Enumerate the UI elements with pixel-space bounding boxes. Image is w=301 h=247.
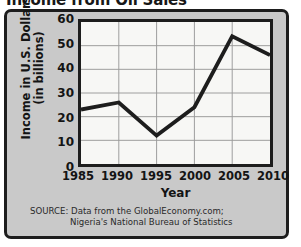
y-axis-tick-labels: 0102030405060	[40, 19, 74, 167]
plot-area	[78, 19, 273, 167]
x-tick-label: 2010	[253, 170, 293, 183]
y-tick-label: 50	[44, 38, 74, 50]
source-note: SOURCE: Data from the GlobalEconomy.com;…	[14, 206, 276, 227]
x-tick-label: 2000	[175, 170, 215, 183]
y-tick-label: 60	[44, 13, 74, 25]
y-tick-label: 10	[44, 136, 74, 148]
y-tick-label: 40	[44, 62, 74, 74]
x-tick-label: 2005	[214, 170, 254, 183]
y-tick-label: 20	[44, 112, 74, 124]
x-tick-label: 1995	[136, 170, 176, 183]
data-line-series	[81, 36, 270, 135]
x-tick-label: 1985	[58, 170, 98, 183]
x-axis-title: Year	[78, 186, 273, 200]
source-note-line1: SOURCE: Data from the GlobalEconomy.com;	[14, 206, 276, 217]
y-axis-title-line1: Income in U.S. Dollars	[19, 0, 33, 140]
plot-svg	[81, 22, 270, 164]
horizontal-gridlines	[81, 46, 270, 141]
x-axis-tick-labels: 198519901995200020052010	[78, 170, 273, 186]
y-tick-label: 30	[44, 87, 74, 99]
source-note-line2: Nigeria's National Bureau of Statistics	[14, 217, 276, 228]
x-tick-label: 1990	[97, 170, 137, 183]
chart-figure: Income from Oil Sales Income in U.S. Dol…	[0, 0, 301, 247]
